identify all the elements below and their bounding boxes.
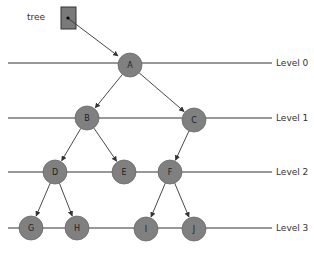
edge-D-H bbox=[59, 183, 72, 216]
edge-B-D bbox=[62, 128, 81, 160]
node-E: E bbox=[112, 160, 136, 184]
tree-pointer: tree bbox=[27, 7, 118, 56]
level-label-3: Level 3 bbox=[276, 223, 308, 233]
edge-B-E bbox=[94, 128, 117, 161]
node-B: B bbox=[75, 106, 99, 130]
node-C: C bbox=[182, 108, 206, 132]
node-label: J bbox=[192, 225, 195, 234]
tree-edges bbox=[36, 73, 189, 217]
edge-C-F bbox=[175, 131, 189, 160]
tree-nodes: ABCDEFGHIJ bbox=[19, 53, 206, 241]
node-label: H bbox=[74, 224, 80, 233]
node-label: D bbox=[52, 168, 58, 177]
tree-pointer-label: tree bbox=[27, 12, 46, 22]
node-label: A bbox=[127, 61, 133, 70]
edge-A-C bbox=[139, 73, 184, 112]
node-label: G bbox=[28, 224, 34, 233]
node-G: G bbox=[19, 216, 43, 240]
node-label: I bbox=[145, 225, 147, 234]
node-label: C bbox=[191, 116, 197, 125]
edge-D-G bbox=[36, 183, 50, 216]
pointer-arrow bbox=[69, 19, 118, 56]
level-lines: Level 0Level 1Level 2Level 3 bbox=[8, 58, 309, 233]
level-label-1: Level 1 bbox=[276, 113, 308, 123]
node-J: J bbox=[182, 217, 206, 241]
node-F: F bbox=[158, 160, 182, 184]
level-label-2: Level 2 bbox=[276, 167, 308, 177]
node-label: B bbox=[84, 114, 90, 123]
node-D: D bbox=[43, 160, 67, 184]
node-I: I bbox=[134, 217, 158, 241]
node-label: E bbox=[121, 168, 126, 177]
node-A: A bbox=[118, 53, 142, 77]
edge-F-I bbox=[151, 183, 165, 217]
node-label: F bbox=[168, 168, 173, 177]
edge-F-J bbox=[175, 183, 189, 217]
node-H: H bbox=[65, 216, 89, 240]
edge-A-B bbox=[95, 74, 122, 108]
level-label-0: Level 0 bbox=[276, 58, 309, 68]
tree-diagram: Level 0Level 1Level 2Level 3 tree ABCDEF… bbox=[0, 0, 314, 256]
